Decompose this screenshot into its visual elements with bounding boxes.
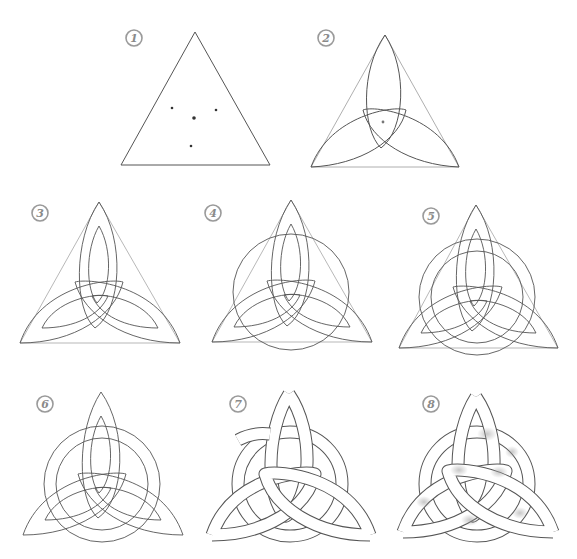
marker-dot xyxy=(171,107,174,110)
center-point xyxy=(192,116,196,120)
step-6-panel: 6 xyxy=(23,392,183,542)
interlaced-knot xyxy=(212,394,370,536)
drawing-canvas: 1 2 3 xyxy=(0,0,577,559)
outer-petal xyxy=(79,202,117,328)
step-badge: 3 xyxy=(32,205,48,221)
step-8-panel: 8 xyxy=(403,396,553,536)
guide-triangle xyxy=(212,200,372,342)
inner-petal xyxy=(42,295,108,328)
shaded-knot xyxy=(403,397,553,536)
outer-circle xyxy=(419,239,535,355)
step-badge: 2 xyxy=(318,30,334,46)
guide-triangle xyxy=(311,35,459,167)
inner-petal xyxy=(466,229,486,306)
step-number: 2 xyxy=(321,32,330,45)
inner-petal xyxy=(92,295,158,328)
step-number: 1 xyxy=(130,32,138,45)
step-badge: 8 xyxy=(423,396,439,412)
marker-dot xyxy=(190,145,193,148)
guide-triangle xyxy=(121,32,270,165)
outer-circle xyxy=(44,426,160,542)
inner-petal xyxy=(421,300,487,333)
outer-petal xyxy=(20,281,123,343)
step-badge: 1 xyxy=(126,30,142,46)
outer-petal xyxy=(399,286,502,348)
inner-petal xyxy=(281,224,301,301)
outer-circle xyxy=(233,234,349,350)
step-number: 8 xyxy=(427,398,435,411)
petal-arc xyxy=(363,109,459,167)
outer-petal xyxy=(456,205,494,331)
step-number: 3 xyxy=(36,207,44,220)
inner-petal xyxy=(91,416,111,493)
step-badge: 6 xyxy=(37,396,53,412)
step-badge: 7 xyxy=(230,396,246,412)
outer-petal xyxy=(271,200,309,326)
step-5-panel: 5 xyxy=(399,205,558,355)
step-number: 6 xyxy=(41,398,49,411)
step-number: 7 xyxy=(234,398,242,411)
outer-petal xyxy=(82,392,120,518)
step-4-panel: 4 xyxy=(205,200,372,350)
step-1-panel: 1 xyxy=(121,30,270,165)
marker-dot xyxy=(215,109,218,112)
step-number: 5 xyxy=(427,210,435,223)
step-2-panel: 2 xyxy=(311,30,459,167)
step-badge: 5 xyxy=(423,208,439,224)
step-7-panel: 7 xyxy=(212,394,370,536)
inner-petal xyxy=(89,226,109,303)
step-number: 4 xyxy=(209,207,217,220)
center-point xyxy=(382,121,385,124)
petal-arc xyxy=(311,109,406,167)
step-3-panel: 3 xyxy=(20,202,180,343)
guide-triangle xyxy=(20,202,180,343)
step-badge: 4 xyxy=(205,205,221,221)
